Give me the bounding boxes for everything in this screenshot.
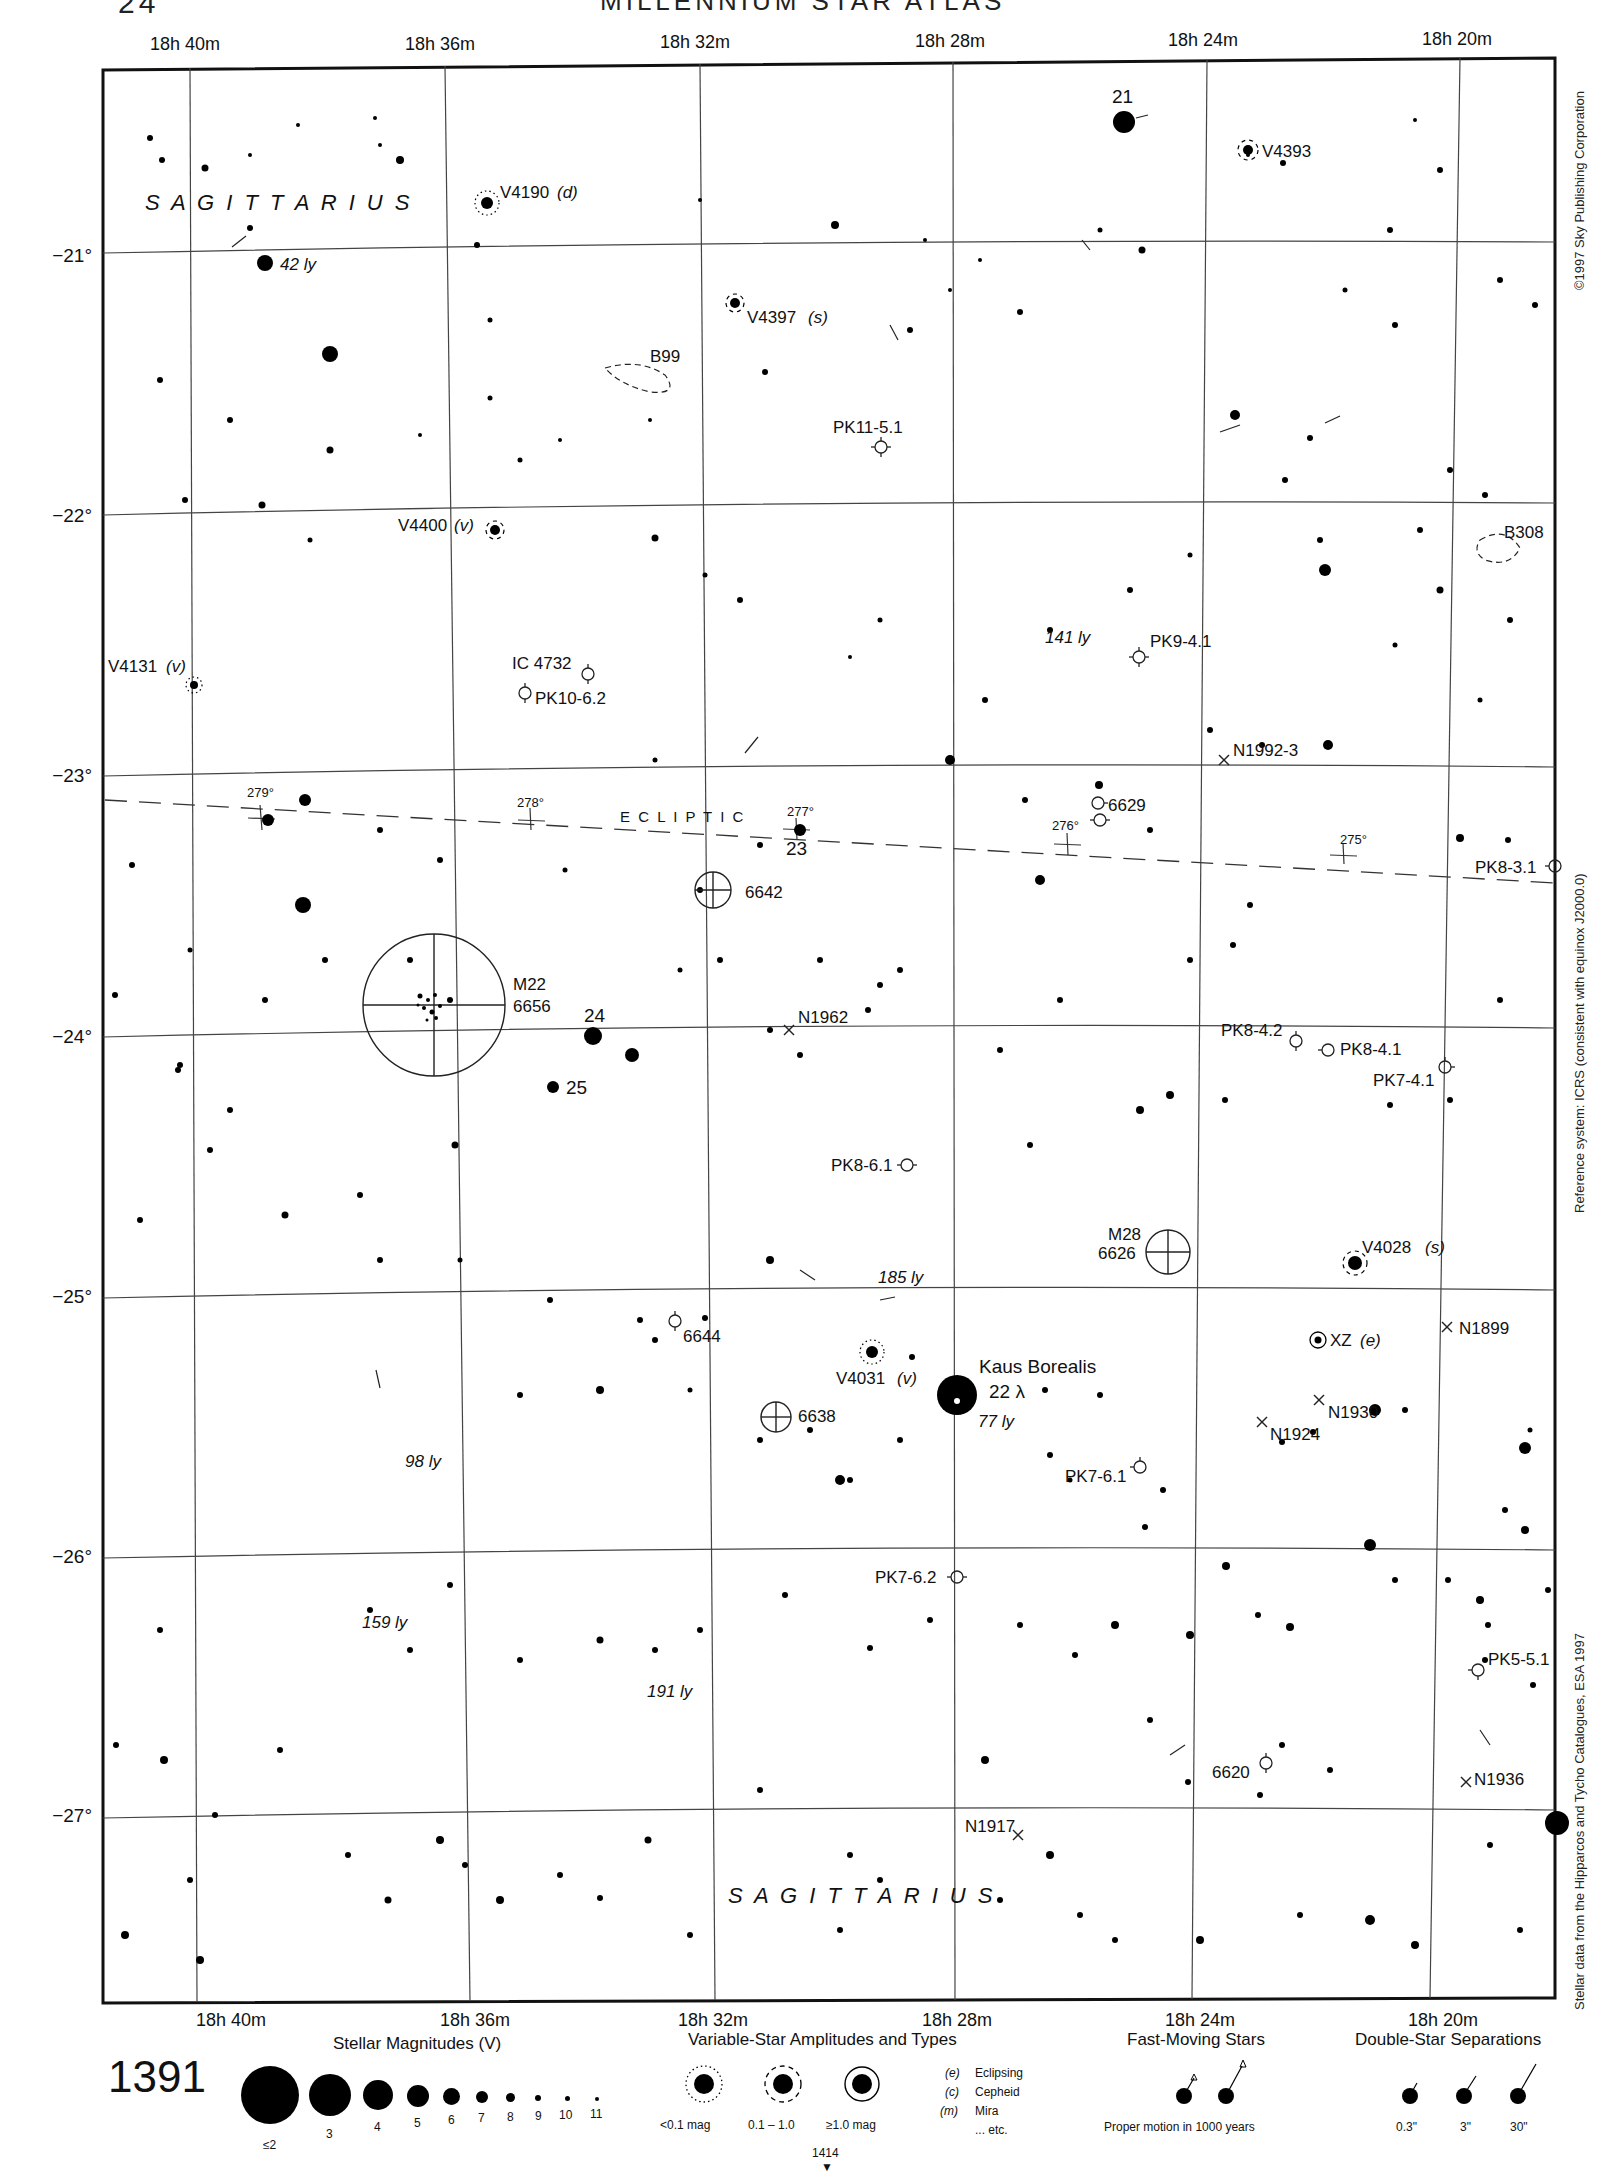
svg-text:V4400: V4400 [398, 516, 447, 535]
svg-text:N1924: N1924 [1270, 1425, 1320, 1444]
svg-text:185 ly: 185 ly [878, 1268, 925, 1287]
svg-text:6656: 6656 [513, 997, 551, 1016]
svg-text:PK7-6.1: PK7-6.1 [1065, 1467, 1126, 1486]
svg-text:N1899: N1899 [1459, 1319, 1509, 1338]
mag-dot-8 [506, 2093, 515, 2102]
svg-text:B99: B99 [650, 347, 680, 366]
dec-gridlines [103, 241, 1555, 1818]
mag-label: 10 [559, 2108, 572, 2122]
mag-label: 3 [326, 2127, 333, 2141]
svg-text:(d): (d) [557, 183, 578, 202]
mag-label: 11 [590, 2107, 602, 2121]
svg-text:(s): (s) [808, 308, 828, 327]
type-name: Eclipsing [975, 2066, 1023, 2080]
svg-text:6629: 6629 [1108, 796, 1146, 815]
svg-text:98 ly: 98 ly [405, 1452, 442, 1471]
type-code: (e) [945, 2066, 960, 2080]
svg-text:−23°: −23° [52, 765, 92, 786]
svg-text:−21°: −21° [52, 245, 92, 266]
svg-text:159 ly: 159 ly [362, 1613, 409, 1632]
planetary-nebulae [519, 437, 1561, 1773]
amplitude-label: 0.1 – 1.0 [748, 2118, 795, 2132]
svg-text:77 ly: 77 ly [978, 1412, 1015, 1431]
svg-text:18h 20m: 18h 20m [1422, 29, 1492, 49]
svg-text:6638: 6638 [798, 1407, 836, 1426]
svg-text:PK9-4.1: PK9-4.1 [1150, 632, 1211, 651]
type-code: (m) [940, 2104, 958, 2118]
svg-text:−22°: −22° [52, 505, 92, 526]
mag-label: 4 [374, 2120, 381, 2134]
svg-text:N1917: N1917 [965, 1817, 1015, 1836]
field-stars [112, 116, 1551, 1964]
adjacent-chart-arrow-icon[interactable]: ▼ [821, 2160, 833, 2174]
double-star-title: Double-Star Separations [1355, 2030, 1541, 2050]
svg-text:6620: 6620 [1212, 1763, 1250, 1782]
novae-markers [784, 755, 1471, 1840]
adjacent-chart-number[interactable]: 1414 [812, 2146, 839, 2160]
mag-dot-2 [241, 2066, 299, 2124]
double-star-symbols [1390, 2050, 1550, 2112]
mag-dot-10 [565, 2096, 570, 2101]
svg-text:279°: 279° [247, 785, 274, 800]
fast-moving-title: Fast-Moving Stars [1127, 2030, 1265, 2050]
proper-motion-symbols [1160, 2052, 1270, 2112]
star-25 [547, 1081, 559, 1093]
type-code: (c) [945, 2085, 959, 2099]
mag-label: 8 [507, 2110, 514, 2124]
svg-text:−27°: −27° [52, 1805, 92, 1826]
svg-text:V4190: V4190 [500, 183, 549, 202]
svg-text:23: 23 [786, 838, 807, 859]
kaus-borealis-star [937, 1375, 977, 1415]
ra-axis-top: 18h 40m 18h 36m 18h 32m 18h 28m 18h 24m … [150, 29, 1492, 54]
variables-title: Variable-Star Amplitudes and Types [688, 2030, 957, 2050]
svg-text:191 ly: 191 ly [647, 1682, 694, 1701]
star-chart[interactable]: 18h 40m 18h 36m 18h 32m 18h 28m 18h 24m … [0, 0, 1614, 2177]
svg-text:XZ: XZ [1330, 1331, 1352, 1350]
mag-dot-3 [309, 2074, 351, 2116]
svg-text:25: 25 [566, 1077, 587, 1098]
svg-text:18h 40m: 18h 40m [150, 34, 220, 54]
mag-label: ≤2 [263, 2138, 276, 2152]
svg-text:18h 36m: 18h 36m [405, 34, 475, 54]
svg-text:V4028: V4028 [1362, 1238, 1411, 1257]
svg-text:42 ly: 42 ly [280, 255, 317, 274]
svg-text:276°: 276° [1052, 818, 1079, 833]
type-name: ... etc. [975, 2123, 1008, 2137]
svg-text:24: 24 [584, 1005, 606, 1026]
svg-text:PK7-4.1: PK7-4.1 [1373, 1071, 1434, 1090]
svg-text:−25°: −25° [52, 1286, 92, 1307]
mag-dot-4 [363, 2080, 393, 2110]
svg-text:M28: M28 [1108, 1225, 1141, 1244]
mag-label: 5 [414, 2116, 421, 2130]
svg-text:18h 32m: 18h 32m [660, 32, 730, 52]
constellation-name-bottom: S A G I T T A R I U S [728, 1883, 996, 1908]
mag-label: 7 [478, 2111, 485, 2125]
svg-text:N1930: N1930 [1328, 1403, 1378, 1422]
ecliptic-label: E C L I P T I C [620, 808, 745, 825]
svg-text:(v): (v) [897, 1369, 917, 1388]
svg-text:278°: 278° [517, 795, 544, 810]
separation-label: 0.3" [1396, 2120, 1417, 2134]
mag-dot-7 [476, 2091, 488, 2103]
svg-text:(s): (s) [1425, 1238, 1445, 1257]
svg-text:V4397: V4397 [747, 308, 796, 327]
svg-text:V4393: V4393 [1262, 142, 1311, 161]
star-24 [584, 1027, 602, 1045]
type-name: Mira [975, 2104, 998, 2118]
dec-axis: −21° −22° −23° −24° −25° −26° −27° [52, 245, 92, 1826]
svg-text:PK11-5.1: PK11-5.1 [833, 418, 903, 437]
legend: Stellar Magnitudes (V) ≤2 3 4 5 6 7 8 9 … [0, 2020, 1614, 2177]
amplitude-label: ≥1.0 mag [826, 2118, 876, 2132]
svg-text:PK8-4.1: PK8-4.1 [1340, 1040, 1401, 1059]
variable-symbols [670, 2060, 930, 2110]
svg-text:N1936: N1936 [1474, 1770, 1524, 1789]
svg-text:18h 28m: 18h 28m [915, 31, 985, 51]
m22-core-stars [417, 993, 443, 1022]
constellation-name-top: S A G I T T A R I U S [145, 190, 413, 215]
data-source-text: Stellar data from the Hipparcos and Tych… [1572, 1633, 1587, 2010]
magnitudes-title: Stellar Magnitudes (V) [333, 2034, 501, 2054]
svg-text:V4131: V4131 [108, 657, 157, 676]
svg-text:22 λ: 22 λ [989, 1381, 1025, 1402]
proper-motion-caption: Proper motion in 1000 years [1104, 2120, 1255, 2134]
svg-text:−26°: −26° [52, 1546, 92, 1567]
